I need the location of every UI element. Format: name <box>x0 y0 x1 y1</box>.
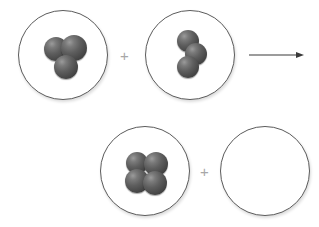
particle-container-reactant-2 <box>145 10 235 100</box>
reaction-diagram: ++ <box>0 0 319 227</box>
particle-container-product-2 <box>220 126 310 216</box>
atom-sphere <box>144 152 168 176</box>
reaction-arrow-icon <box>249 50 304 59</box>
plus-top-operator: + <box>120 48 129 63</box>
molecule-reactant-1 <box>19 11 107 99</box>
molecule-product-2 <box>221 127 309 215</box>
arrow-head <box>296 52 304 58</box>
atom-sphere <box>61 35 87 61</box>
particle-container-product-1 <box>100 126 190 216</box>
molecule-product-1 <box>101 127 189 215</box>
atom-sphere <box>54 55 78 79</box>
molecule-reactant-2 <box>146 11 234 99</box>
atom-sphere <box>125 169 149 193</box>
atom-sphere <box>44 37 68 61</box>
atom-sphere <box>177 56 199 78</box>
arrow-shaft <box>249 54 297 55</box>
atom-sphere <box>185 43 207 65</box>
particle-container-reactant-1 <box>18 10 108 100</box>
atom-sphere <box>126 152 148 174</box>
atom-sphere <box>177 30 199 52</box>
plus-bottom-operator: + <box>200 164 209 179</box>
atom-sphere <box>143 171 167 195</box>
